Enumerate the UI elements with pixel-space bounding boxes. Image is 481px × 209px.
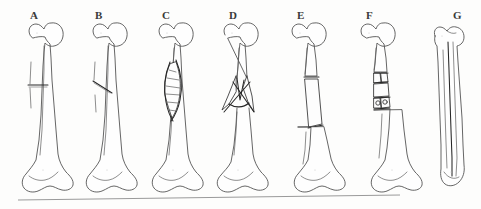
bone-e-condyle-speck — [314, 169, 315, 170]
panel-label-b: B — [95, 10, 103, 21]
bone-f-fragment-cluster-lower — [374, 97, 390, 109]
bone-g-distal-speck — [450, 171, 451, 172]
bone-c-condyle-speck — [172, 169, 173, 170]
bone-f-fragment-6 — [383, 100, 387, 104]
bone-d-condyle-speck — [237, 169, 238, 170]
bone-b-head-speck — [100, 32, 101, 33]
bone-d-wedge-line — [229, 103, 249, 107]
bone-d-fragment-left — [222, 76, 236, 110]
bone-g-head-speck — [441, 35, 442, 36]
panel-label-g: G — [453, 10, 462, 21]
bone-e-proximal-outline — [292, 23, 326, 76]
bone-f-comminuted — [361, 23, 422, 192]
bone-g-longitudinal — [434, 27, 464, 186]
bone-f-fragment-1 — [374, 73, 381, 83]
bone-a-condyle-speck — [42, 169, 43, 170]
bone-f-head-speck — [368, 32, 369, 33]
bone-g-outline — [434, 27, 464, 186]
bone-a-transverse — [22, 23, 73, 192]
panel-label-f: F — [366, 10, 373, 21]
panel-label-a: A — [30, 10, 38, 21]
bone-f-fragment-2 — [381, 73, 388, 82]
bone-f-condyle-speck — [391, 169, 392, 170]
bone-b-cortex-left — [94, 62, 96, 112]
bone-f-fragment-5 — [376, 101, 380, 105]
bone-b-condyle-speck — [106, 169, 107, 170]
panel-label-e: E — [297, 10, 305, 21]
bone-c-spiral — [152, 23, 203, 192]
panel-label-c: C — [162, 10, 170, 21]
bone-b-outline — [86, 23, 137, 192]
bone-e-distal-shaft-line — [303, 132, 306, 164]
bone-c-head-speck — [166, 32, 167, 33]
bone-d-head-speck — [231, 32, 232, 33]
bone-a-head-speck — [36, 32, 37, 33]
figure-canvas — [0, 0, 481, 209]
femur-fracture-figure: A B C D E F G — [0, 0, 481, 209]
bone-b-oblique — [86, 23, 137, 192]
bone-d-comminuted-butterfly — [217, 23, 268, 192]
bone-e-segmental-displaced — [292, 23, 345, 192]
bone-f-fragment-cluster-upper — [374, 73, 388, 83]
bone-f-proximal-outline — [361, 23, 395, 72]
bone-f-distal-shaft-line — [379, 114, 382, 158]
bone-e-distal-outline — [294, 127, 345, 192]
bone-f-mid-segment — [374, 83, 389, 97]
bone-a-outline — [22, 23, 73, 192]
panel-label-d: D — [229, 10, 237, 21]
bone-e-head-speck — [299, 32, 300, 33]
bone-e-displaced-segment — [305, 79, 322, 127]
bone-d-fragment-right — [243, 76, 254, 112]
ground-line — [18, 195, 400, 200]
